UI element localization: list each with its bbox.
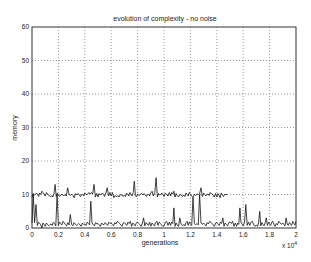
x-multiplier: x 104	[282, 240, 297, 249]
y-tick-label: 20	[22, 157, 30, 164]
data-series	[32, 178, 296, 228]
x-tick-label: 1.6	[239, 231, 248, 238]
x-tick-label: 1.2	[186, 231, 195, 238]
y-axis-label: memory	[11, 115, 19, 141]
x-tick-label: 0.4	[80, 231, 89, 238]
x-tick-label: 1	[162, 231, 166, 238]
y-tick-label: 50	[22, 57, 30, 64]
x-tick-label: 0.6	[107, 231, 116, 238]
y-tick-labels: 0102030405060	[22, 23, 30, 231]
x-tick-label: 0.8	[133, 231, 142, 238]
x-tick-label: 1.8	[265, 231, 274, 238]
x-tick-label: 0.2	[54, 231, 63, 238]
y-tick-label: 10	[22, 191, 30, 198]
chart-title: evolution of complexity - no noise	[113, 15, 217, 23]
y-tick-label: 0	[25, 224, 29, 231]
x-tick-label: 2	[294, 231, 298, 238]
x-tick-label: 0	[30, 231, 34, 238]
series-line	[32, 178, 227, 198]
y-tick-label: 60	[22, 23, 30, 30]
chart: 0102030405060 00.20.40.60.811.21.41.61.8…	[0, 0, 311, 262]
x-tick-label: 1.4	[212, 231, 221, 238]
gridlines	[32, 27, 296, 228]
x-axis-label: generations	[142, 239, 179, 247]
y-tick-label: 30	[22, 124, 30, 131]
x-tick-labels: 00.20.40.60.811.21.41.61.82	[30, 231, 298, 238]
y-tick-label: 40	[22, 90, 30, 97]
